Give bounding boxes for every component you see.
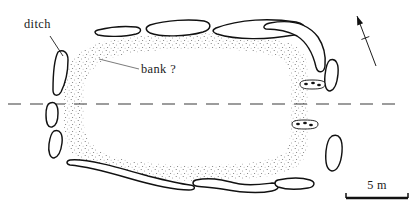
pit-dot-2 [303, 122, 307, 125]
ditch-segment-s-right [275, 178, 314, 189]
pit-dot-1 [296, 123, 300, 126]
pit-group-south-entrance [292, 120, 318, 129]
ditch-segment-w-middle [46, 102, 58, 127]
site-plan-drawing: ditch bank ? 5 m [0, 0, 412, 214]
scale-bar-label: 5 m [367, 178, 387, 192]
pit-dot-3 [317, 84, 321, 87]
pit-dot-2 [311, 82, 315, 85]
site-plan-figure: ditch bank ? 5 m [0, 0, 412, 214]
bank-label: bank ? [141, 62, 176, 76]
pit-dot-1 [304, 83, 308, 86]
pit-dot-3 [309, 124, 313, 127]
ditch-label: ditch [24, 17, 51, 31]
pit-group-south-entrance-outline [292, 120, 318, 129]
pit-group-north-entrance-outline [300, 80, 325, 89]
pit-group-north-entrance [300, 80, 325, 89]
